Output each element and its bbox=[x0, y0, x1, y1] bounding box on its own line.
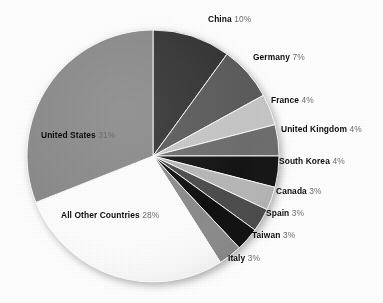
slice-label-taiwan-name: Taiwan bbox=[252, 230, 280, 240]
slice-label-spain: Spain3% bbox=[266, 208, 304, 218]
slice-label-south-korea: South Korea4% bbox=[279, 156, 345, 166]
slice-label-canada: Canada3% bbox=[276, 186, 322, 196]
slice-label-united-states: United States31% bbox=[41, 130, 115, 140]
slice-label-france: France4% bbox=[271, 95, 314, 105]
slice-label-united-kingdom-value: 4% bbox=[350, 124, 362, 134]
slice-label-all-other-countries-name: All Other Countries bbox=[61, 210, 140, 220]
slice-label-south-korea-value: 4% bbox=[332, 156, 344, 166]
slice-label-canada-value: 3% bbox=[309, 186, 321, 196]
slice-label-germany-value: 7% bbox=[293, 52, 305, 62]
slice-label-south-korea-name: South Korea bbox=[279, 156, 330, 166]
pie-chart-canvas: China 10%Germany 7%France 4%United Kingd… bbox=[0, 0, 383, 303]
slice-label-italy-value: 3% bbox=[248, 253, 260, 263]
slice-label-taiwan-value: 3% bbox=[283, 230, 295, 240]
slice-label-all-other-countries: All Other Countries28% bbox=[61, 210, 159, 220]
slice-label-united-states-name: United States bbox=[41, 130, 96, 140]
slice-label-france-value: 4% bbox=[302, 95, 314, 105]
pie-chart-figure: China 10%Germany 7%France 4%United Kingd… bbox=[0, 0, 383, 303]
slice-label-spain-name: Spain bbox=[266, 208, 289, 218]
slice-label-germany: Germany7% bbox=[253, 52, 305, 62]
slice-label-taiwan: Taiwan3% bbox=[252, 230, 295, 240]
slice-label-china-value: 10% bbox=[234, 14, 251, 24]
slice-label-all-other-countries-value: 28% bbox=[142, 210, 159, 220]
slice-label-united-kingdom: United Kingdom4% bbox=[281, 124, 362, 134]
slice-label-italy-name: Italy bbox=[228, 253, 245, 263]
slice-label-united-states-value: 31% bbox=[98, 130, 115, 140]
slice-label-china: China10% bbox=[208, 14, 251, 24]
slice-label-italy: Italy3% bbox=[228, 253, 260, 263]
slice-label-france-name: France bbox=[271, 95, 299, 105]
slice-label-germany-name: Germany bbox=[253, 52, 290, 62]
slice-label-spain-value: 3% bbox=[292, 208, 304, 218]
slice-label-china-name: China bbox=[208, 14, 232, 24]
slice-label-canada-name: Canada bbox=[276, 186, 307, 196]
slice-label-united-kingdom-name: United Kingdom bbox=[281, 124, 347, 134]
pie-slice-group: China 10%Germany 7%France 4%United Kingd… bbox=[27, 30, 279, 282]
